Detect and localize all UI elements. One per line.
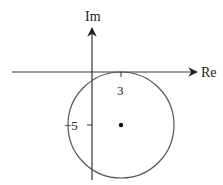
imaginary-axis-label: Im [85,9,101,24]
complex-plane-diagram: Im Re 3 −5 [0,0,223,185]
real-tick-label: 3 [117,83,124,98]
real-axis-label: Re [201,65,217,80]
center-point [119,123,123,127]
imag-tick-label: −5 [64,118,78,133]
